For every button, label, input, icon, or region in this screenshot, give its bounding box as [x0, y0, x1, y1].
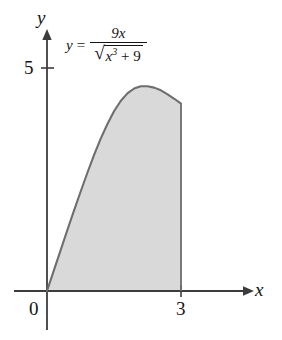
equation-denominator: √ x3 + 9 — [90, 43, 147, 64]
x-axis-tick-label-3: 3 — [176, 299, 186, 318]
y-axis-label: y — [37, 8, 45, 27]
radicand-plus-sign: + — [117, 48, 133, 64]
equation-equals-sign: = — [77, 38, 85, 53]
radical-group: √ x3 + 9 — [94, 45, 143, 64]
y-axis-tick-label-5: 5 — [24, 58, 34, 77]
equation-annotation: y = 9x √ x3 + 9 — [66, 26, 147, 64]
equation-lhs: y — [66, 38, 73, 53]
radical-overbar — [104, 45, 143, 46]
origin-label: 0 — [29, 299, 39, 318]
radicand-expression: x3 + 9 — [104, 47, 143, 64]
x-axis-label: x — [255, 280, 263, 299]
radicand-constant: 9 — [133, 48, 141, 64]
equation-fraction: 9x √ x3 + 9 — [90, 26, 147, 64]
shaded-region — [47, 86, 181, 291]
x-axis-arrowhead — [243, 286, 254, 295]
radicand-wrapper: x3 + 9 — [104, 45, 143, 64]
equation-numerator: 9x — [105, 26, 131, 42]
y-axis-arrowhead — [42, 29, 51, 40]
radical-sign-icon: √ — [94, 44, 104, 63]
